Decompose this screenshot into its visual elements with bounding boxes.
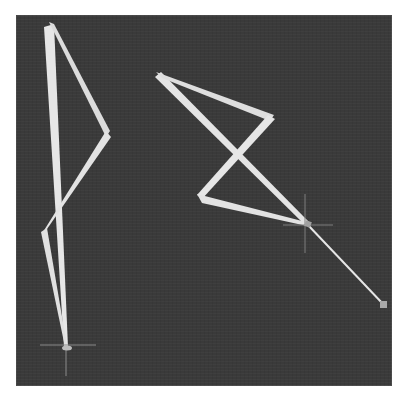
left-bone-chain	[40, 22, 111, 376]
right-bone-chain	[155, 72, 387, 308]
bone-scene	[0, 0, 406, 401]
right-upper-bone[interactable]	[156, 72, 274, 121]
right-diagonal-bone[interactable]	[155, 72, 309, 226]
root-crosshair-icon[interactable]	[40, 345, 96, 376]
end-effector-handle-icon[interactable]	[380, 301, 387, 308]
right-end-bone[interactable]	[307, 224, 384, 305]
